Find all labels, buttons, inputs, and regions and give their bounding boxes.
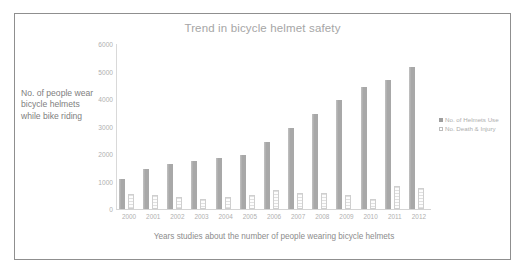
bar-group: 2000 xyxy=(117,44,141,209)
bar-helmets-use[interactable] xyxy=(216,158,222,209)
x-axis-tick-label: 2002 xyxy=(165,213,189,220)
x-axis-tick-label: 2000 xyxy=(117,213,141,220)
bar-group: 2004 xyxy=(214,44,238,209)
bar-death-injury[interactable] xyxy=(225,197,231,209)
chart-legend: No. of Helmets UseNo. Death & Injury xyxy=(439,116,525,134)
x-axis-tick-label: 2006 xyxy=(262,213,286,220)
y-axis-tick-label: 5000 xyxy=(98,68,113,75)
legend-item[interactable]: No. Death & Injury xyxy=(439,125,525,132)
legend-swatch-icon xyxy=(439,118,443,122)
bar-group: 2001 xyxy=(141,44,165,209)
y-axis-tick-label: 4000 xyxy=(98,96,113,103)
x-axis-tick-label: 2010 xyxy=(359,213,383,220)
bar-death-injury[interactable] xyxy=(418,188,424,209)
bar-helmets-use[interactable] xyxy=(240,155,246,209)
bar-death-injury[interactable] xyxy=(152,195,158,209)
bar-death-injury[interactable] xyxy=(176,197,182,209)
legend-item[interactable]: No. of Helmets Use xyxy=(439,116,525,123)
bar-death-injury[interactable] xyxy=(128,194,134,209)
bar-group: 2002 xyxy=(165,44,189,209)
y-axis-tick-label: 1000 xyxy=(98,178,113,185)
x-axis-tick-label: 2005 xyxy=(238,213,262,220)
bar-death-injury[interactable] xyxy=(200,199,206,209)
x-axis-tick-label: 2007 xyxy=(286,213,310,220)
bar-helmets-use[interactable] xyxy=(143,169,149,209)
y-axis-tick-label: 3000 xyxy=(98,123,113,130)
y-axis-tick-label: 2000 xyxy=(98,151,113,158)
bar-death-injury[interactable] xyxy=(273,190,279,209)
bar-group: 2007 xyxy=(286,44,310,209)
y-axis-title: No. of people wear bicycle helmets while… xyxy=(21,88,99,122)
x-axis-tick-label: 2001 xyxy=(141,213,165,220)
plot-area: 0100020003000400050006000200020012002200… xyxy=(116,44,431,210)
bar-group: 2006 xyxy=(262,44,286,209)
x-axis-title: Years studies about the number of people… xyxy=(101,232,447,241)
bar-helmets-use[interactable] xyxy=(264,142,270,209)
bar-helmets-use[interactable] xyxy=(409,67,415,209)
bar-death-injury[interactable] xyxy=(370,199,376,209)
bar-helmets-use[interactable] xyxy=(361,87,367,209)
bar-group: 2008 xyxy=(310,44,334,209)
bar-helmets-use[interactable] xyxy=(191,161,197,209)
bar-group: 2010 xyxy=(359,44,383,209)
legend-label: No. of Helmets Use xyxy=(445,116,499,123)
bar-group: 2009 xyxy=(334,44,358,209)
chart-figure-frame: Trend in bicycle helmet safety No. of pe… xyxy=(14,13,511,260)
bar-group: 2011 xyxy=(383,44,407,209)
bar-group: 2003 xyxy=(189,44,213,209)
chart-title: Trend in bicycle helmet safety xyxy=(15,22,510,34)
x-axis-tick-label: 2004 xyxy=(214,213,238,220)
bar-death-injury[interactable] xyxy=(321,193,327,210)
bar-death-injury[interactable] xyxy=(297,193,303,210)
bar-group: 2005 xyxy=(238,44,262,209)
legend-swatch-icon xyxy=(439,127,443,131)
x-axis-tick-label: 2009 xyxy=(334,213,358,220)
x-axis-tick-label: 2003 xyxy=(190,213,214,220)
y-axis-tick-label: 0 xyxy=(109,206,113,213)
x-axis-tick-label: 2008 xyxy=(310,213,334,220)
bar-death-injury[interactable] xyxy=(394,186,400,209)
bar-helmets-use[interactable] xyxy=(288,128,294,209)
bar-helmets-use[interactable] xyxy=(312,114,318,209)
bar-group: 2012 xyxy=(407,44,431,209)
bar-helmets-use[interactable] xyxy=(167,164,173,209)
bar-helmets-use[interactable] xyxy=(119,179,125,209)
legend-label: No. Death & Injury xyxy=(445,125,496,132)
y-axis-tick-label: 6000 xyxy=(98,41,113,48)
bar-death-injury[interactable] xyxy=(345,195,351,209)
plot-inner: 0100020003000400050006000200020012002200… xyxy=(117,44,431,209)
bar-death-injury[interactable] xyxy=(249,195,255,209)
bar-helmets-use[interactable] xyxy=(336,100,342,209)
x-axis-tick-label: 2012 xyxy=(407,213,431,220)
bar-helmets-use[interactable] xyxy=(385,80,391,209)
x-axis-tick-label: 2011 xyxy=(383,213,407,220)
